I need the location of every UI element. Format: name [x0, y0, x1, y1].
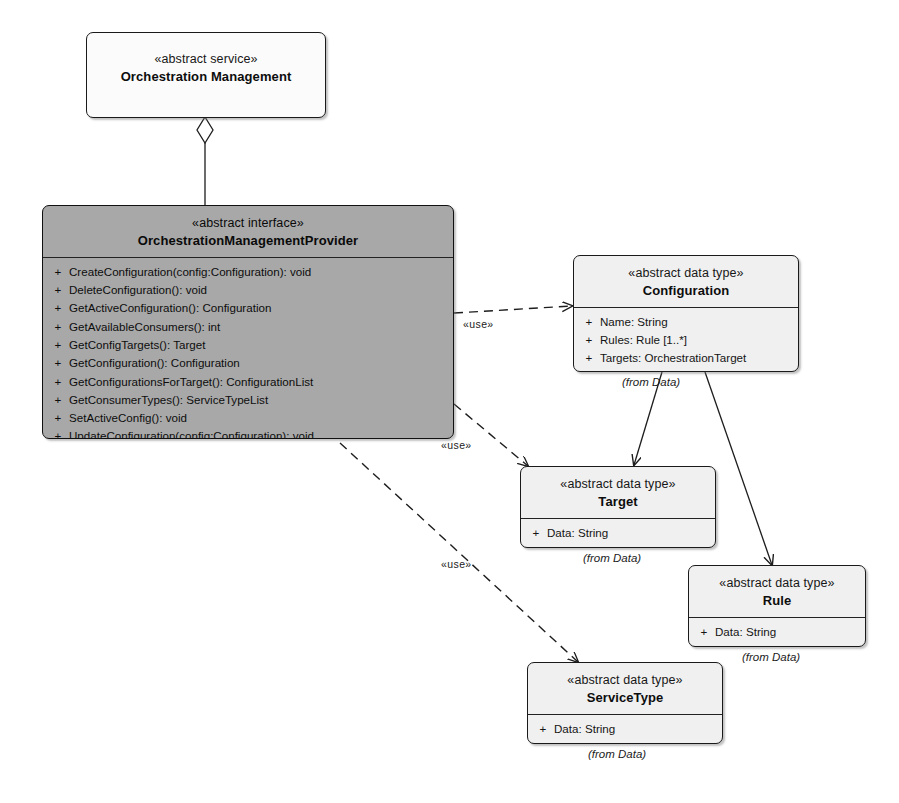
class-header: «abstract data type» Target	[521, 467, 715, 518]
operation-signature: GetActiveConfiguration(): Configuration	[69, 299, 449, 317]
visibility-marker: +	[578, 349, 600, 367]
attributes-compartment: + Name: String + Rules: Rule [1..*] + Ta…	[574, 308, 798, 372]
attribute-signature: Targets: OrchestrationTarget	[600, 349, 794, 367]
package-note-configuration: (from Data)	[622, 376, 680, 388]
class-box-service-type[interactable]: «abstract data type» ServiceType + Data:…	[527, 662, 723, 744]
class-stereotype: «abstract service»	[93, 51, 319, 68]
attribute-row: + Name: String	[578, 313, 794, 331]
operation-row: + GetConfiguration(): Configuration	[47, 354, 449, 372]
operation-signature: GetConsumerTypes(): ServiceTypeList	[69, 391, 449, 409]
attribute-row: + Data: String	[693, 623, 861, 641]
class-box-orchestration-management[interactable]: «abstract service» Orchestration Managem…	[86, 32, 326, 118]
operation-row: + CreateConfiguration(config:Configurati…	[47, 263, 449, 281]
edge-use-target	[454, 404, 528, 466]
operation-row: + GetAvailableConsumers(): int	[47, 318, 449, 336]
operation-signature: GetConfigTargets(): Target	[69, 336, 449, 354]
visibility-marker: +	[47, 263, 69, 281]
package-note-target: (from Data)	[583, 552, 641, 564]
aggregation-diamond	[197, 117, 213, 143]
operation-signature: GetConfigurationsForTarget(): Configurat…	[69, 373, 449, 391]
attribute-signature: Data: String	[547, 524, 711, 542]
operation-signature: DeleteConfiguration(): void	[69, 281, 449, 299]
visibility-marker: +	[525, 524, 547, 542]
class-header: «abstract data type» Configuration	[574, 256, 798, 307]
attribute-signature: Name: String	[600, 313, 794, 331]
visibility-marker: +	[47, 336, 69, 354]
class-stereotype: «abstract data type»	[580, 265, 792, 282]
operations-compartment: + CreateConfiguration(config:Configurati…	[43, 258, 453, 439]
class-title: OrchestrationManagementProvider	[49, 232, 447, 249]
visibility-marker: +	[47, 299, 69, 317]
class-box-rule[interactable]: «abstract data type» Rule + Data: String	[688, 565, 866, 647]
operation-signature: GetConfiguration(): Configuration	[69, 354, 449, 372]
class-title: Target	[527, 493, 709, 510]
operation-signature: CreateConfiguration(config:Configuration…	[69, 263, 449, 281]
attribute-row: + Data: String	[532, 720, 718, 738]
operation-row: + GetActiveConfiguration(): Configuratio…	[47, 299, 449, 317]
visibility-marker: +	[47, 427, 69, 439]
edge-label-use-service-type: «use»	[441, 558, 472, 570]
operation-signature: UpdateConfiguration(config:Configuration…	[69, 427, 449, 439]
class-box-configuration[interactable]: «abstract data type» Configuration + Nam…	[573, 255, 799, 372]
class-title: Rule	[695, 592, 859, 609]
edge-label-use-target: «use»	[441, 439, 472, 451]
attributes-compartment: + Data: String	[689, 618, 865, 647]
attribute-row: + Data: String	[525, 524, 711, 542]
attribute-row: + Targets: OrchestrationTarget	[578, 349, 794, 367]
attribute-signature: Data: String	[554, 720, 718, 738]
package-note-rule: (from Data)	[742, 651, 800, 663]
operation-signature: SetActiveConfig(): void	[69, 409, 449, 427]
operation-row: + GetConsumerTypes(): ServiceTypeList	[47, 391, 449, 409]
uml-class-diagram-canvas: «abstract service» Orchestration Managem…	[0, 0, 899, 803]
visibility-marker: +	[47, 409, 69, 427]
visibility-marker: +	[47, 354, 69, 372]
visibility-marker: +	[693, 623, 715, 641]
edge-aggregation-management-provider	[197, 117, 213, 205]
visibility-marker: +	[47, 373, 69, 391]
class-stereotype: «abstract data type»	[534, 672, 716, 689]
class-title: Configuration	[580, 282, 792, 299]
visibility-marker: +	[47, 391, 69, 409]
class-header: «abstract interface» OrchestrationManage…	[43, 206, 453, 257]
class-stereotype: «abstract data type»	[695, 575, 859, 592]
class-box-target[interactable]: «abstract data type» Target + Data: Stri…	[520, 466, 716, 548]
operation-row: + SetActiveConfig(): void	[47, 409, 449, 427]
package-note-service-type: (from Data)	[588, 748, 646, 760]
attributes-compartment: + Data: String	[521, 519, 715, 548]
operation-row: + GetConfigurationsForTarget(): Configur…	[47, 373, 449, 391]
operation-row: + GetConfigTargets(): Target	[47, 336, 449, 354]
visibility-marker: +	[47, 318, 69, 336]
class-header: «abstract data type» ServiceType	[528, 663, 722, 714]
operation-row: + UpdateConfiguration(config:Configurati…	[47, 427, 449, 439]
visibility-marker: +	[578, 313, 600, 331]
operation-row: + DeleteConfiguration(): void	[47, 281, 449, 299]
class-header: «abstract data type» Rule	[689, 566, 865, 617]
visibility-marker: +	[532, 720, 554, 738]
operation-signature: GetAvailableConsumers(): int	[69, 318, 449, 336]
attributes-compartment: + Data: String	[528, 715, 722, 744]
class-box-orchestration-management-provider[interactable]: «abstract interface» OrchestrationManage…	[42, 205, 454, 439]
visibility-marker: +	[578, 331, 600, 349]
class-title: Orchestration Management	[93, 68, 319, 85]
attribute-row: + Rules: Rule [1..*]	[578, 331, 794, 349]
attribute-signature: Rules: Rule [1..*]	[600, 331, 794, 349]
attribute-signature: Data: String	[715, 623, 861, 641]
visibility-marker: +	[47, 281, 69, 299]
edge-label-use-configuration: «use»	[463, 318, 494, 330]
class-title: ServiceType	[534, 689, 716, 706]
class-header: «abstract service» Orchestration Managem…	[87, 33, 325, 93]
edge-use-configuration	[454, 306, 572, 313]
class-stereotype: «abstract data type»	[527, 476, 709, 493]
class-stereotype: «abstract interface»	[49, 215, 447, 232]
